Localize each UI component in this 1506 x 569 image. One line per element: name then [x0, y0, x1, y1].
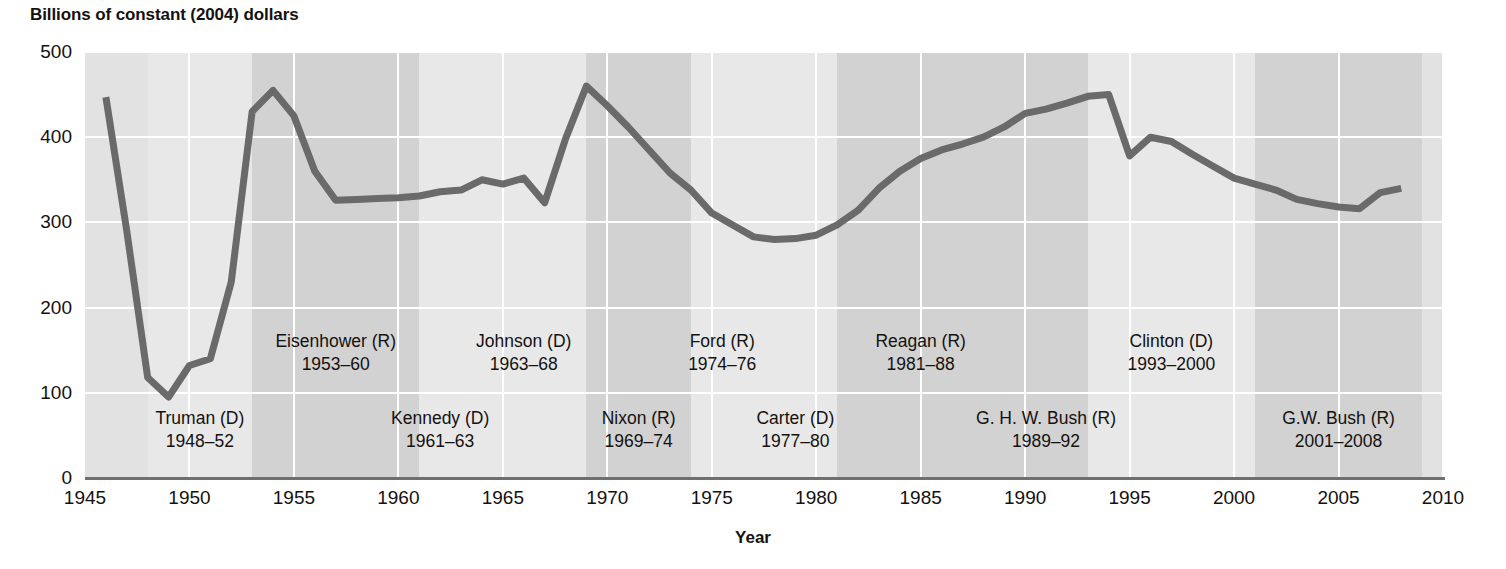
president-years: 1963–68 [476, 353, 571, 376]
x-axis-tick-label: 1960 [377, 487, 419, 509]
president-term-label: Carter (D)1977–80 [756, 407, 834, 453]
president-years: 1981–88 [875, 353, 965, 376]
chart-title: Billions of constant (2004) dollars [30, 5, 299, 25]
x-axis-tick-label: 1970 [586, 487, 628, 509]
president-name: Johnson (D) [476, 330, 571, 353]
president-name: Kennedy (D) [391, 407, 489, 430]
president-name: Carter (D) [756, 407, 834, 430]
president-years: 1974–76 [688, 353, 756, 376]
y-axis-tick-label: 200 [20, 297, 72, 319]
president-years: 1977–80 [756, 430, 834, 453]
x-axis-tick-label: 1955 [273, 487, 315, 509]
x-axis-tick-label: 2010 [1422, 487, 1464, 509]
x-axis-tick-label: 1950 [168, 487, 210, 509]
president-name: G. H. W. Bush (R) [976, 407, 1116, 430]
president-years: 2001–2008 [1282, 430, 1395, 453]
plot-area: Truman (D)1948–52Eisenhower (R)1953–60Ke… [85, 52, 1443, 478]
x-axis-tick-label: 1990 [1004, 487, 1046, 509]
president-term-label: Johnson (D)1963–68 [476, 330, 571, 376]
president-years: 1961–63 [391, 430, 489, 453]
y-axis-tick-label: 400 [20, 126, 72, 148]
x-axis-tick-label: 1995 [1108, 487, 1150, 509]
president-term-label: Nixon (R)1969–74 [602, 407, 676, 453]
president-term-label: Truman (D)1948–52 [156, 407, 245, 453]
president-term-label: Clinton (D)1993–2000 [1128, 330, 1216, 376]
x-axis-tick-label: 2005 [1317, 487, 1359, 509]
y-axis-tick-label: 500 [20, 41, 72, 63]
president-name: Clinton (D) [1128, 330, 1216, 353]
x-axis-tick-label: 1985 [900, 487, 942, 509]
president-name: G.W. Bush (R) [1282, 407, 1395, 430]
president-name: Reagan (R) [875, 330, 965, 353]
y-axis-tick-label: 100 [20, 382, 72, 404]
president-years: 1969–74 [602, 430, 676, 453]
president-name: Eisenhower (R) [275, 330, 396, 353]
x-axis-tick-label: 1945 [64, 487, 106, 509]
president-term-label: G.W. Bush (R)2001–2008 [1282, 407, 1395, 453]
president-term-label: Eisenhower (R)1953–60 [275, 330, 396, 376]
y-axis-tick-label: 300 [20, 211, 72, 233]
president-name: Ford (R) [688, 330, 756, 353]
x-axis-line [85, 477, 1445, 480]
president-name: Nixon (R) [602, 407, 676, 430]
x-axis-tick-label: 1980 [795, 487, 837, 509]
president-term-label: Reagan (R)1981–88 [875, 330, 965, 376]
president-years: 1948–52 [156, 430, 245, 453]
x-axis-tick-label: 1965 [482, 487, 524, 509]
president-years: 1993–2000 [1128, 353, 1216, 376]
president-term-label: Ford (R)1974–76 [688, 330, 756, 376]
x-axis-label: Year [0, 528, 1506, 548]
president-years: 1953–60 [275, 353, 396, 376]
president-term-label: Kennedy (D)1961–63 [391, 407, 489, 453]
x-axis-tick-label: 1975 [691, 487, 733, 509]
president-years: 1989–92 [976, 430, 1116, 453]
president-name: Truman (D) [156, 407, 245, 430]
x-axis-tick-label: 2000 [1213, 487, 1255, 509]
y-axis-tick-label: 0 [20, 467, 72, 489]
president-term-label: G. H. W. Bush (R)1989–92 [976, 407, 1116, 453]
